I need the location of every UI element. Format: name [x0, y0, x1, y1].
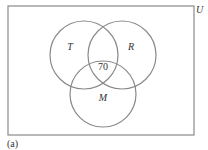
set-circle-r: [88, 21, 156, 89]
set-label-m: M: [98, 92, 108, 103]
figure-caption: (a): [7, 138, 18, 150]
set-circle-t: [50, 21, 118, 89]
region-count-t-r-m: 70: [98, 61, 108, 72]
universe-label: U: [196, 4, 204, 15]
venn-diagram: U T R M 70 (a): [0, 0, 208, 150]
set-label-t: T: [67, 41, 74, 52]
set-label-r: R: [127, 41, 134, 52]
